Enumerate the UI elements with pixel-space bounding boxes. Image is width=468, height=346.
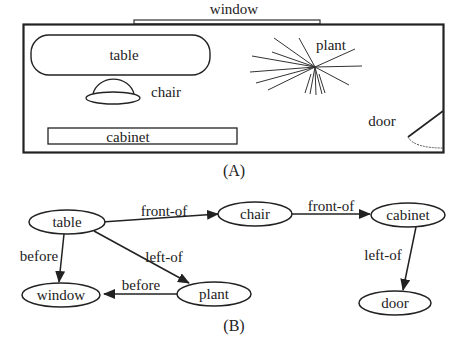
edge-label-table-window: before [20, 248, 59, 264]
chair-shape [86, 79, 140, 104]
edge-label-chair-cabinet: front-of [308, 198, 355, 214]
node-plant: plant [177, 282, 251, 306]
svg-text:chair: chair [240, 206, 270, 222]
edge-cabinet-door [403, 227, 416, 290]
window-label: window [210, 1, 259, 17]
chair-label: chair [151, 84, 181, 100]
panel-b-scene-graph: front-of front-of before left-of before … [20, 198, 445, 335]
node-chair: chair [218, 202, 292, 226]
svg-text:window: window [37, 287, 86, 303]
scene-diagram: window table chair cabinet [0, 0, 468, 346]
svg-text:door: door [381, 295, 409, 311]
edge-label-table-plant: left-of [145, 249, 182, 265]
panel-b-caption: (B) [223, 317, 244, 335]
plant-label: plant [316, 37, 347, 53]
table-label: table [109, 47, 138, 63]
door-label: door [368, 113, 396, 129]
panel-a-room-layout: window table chair cabinet [24, 1, 444, 180]
node-cabinet: cabinet [371, 203, 445, 227]
node-window: window [22, 283, 100, 307]
svg-text:table: table [52, 214, 81, 230]
node-door: door [359, 291, 431, 315]
edge-label-cabinet-door: left-of [364, 247, 401, 263]
edge-label-plant-window: before [122, 277, 161, 293]
panel-a-caption: (A) [223, 162, 245, 180]
svg-text:cabinet: cabinet [386, 207, 430, 223]
door-shape [408, 111, 443, 148]
svg-text:plant: plant [199, 286, 230, 302]
node-table: table [29, 210, 105, 234]
edge-label-table-chair: front-of [141, 203, 188, 219]
edge-table-window [59, 234, 64, 282]
cabinet-label: cabinet [106, 129, 150, 145]
